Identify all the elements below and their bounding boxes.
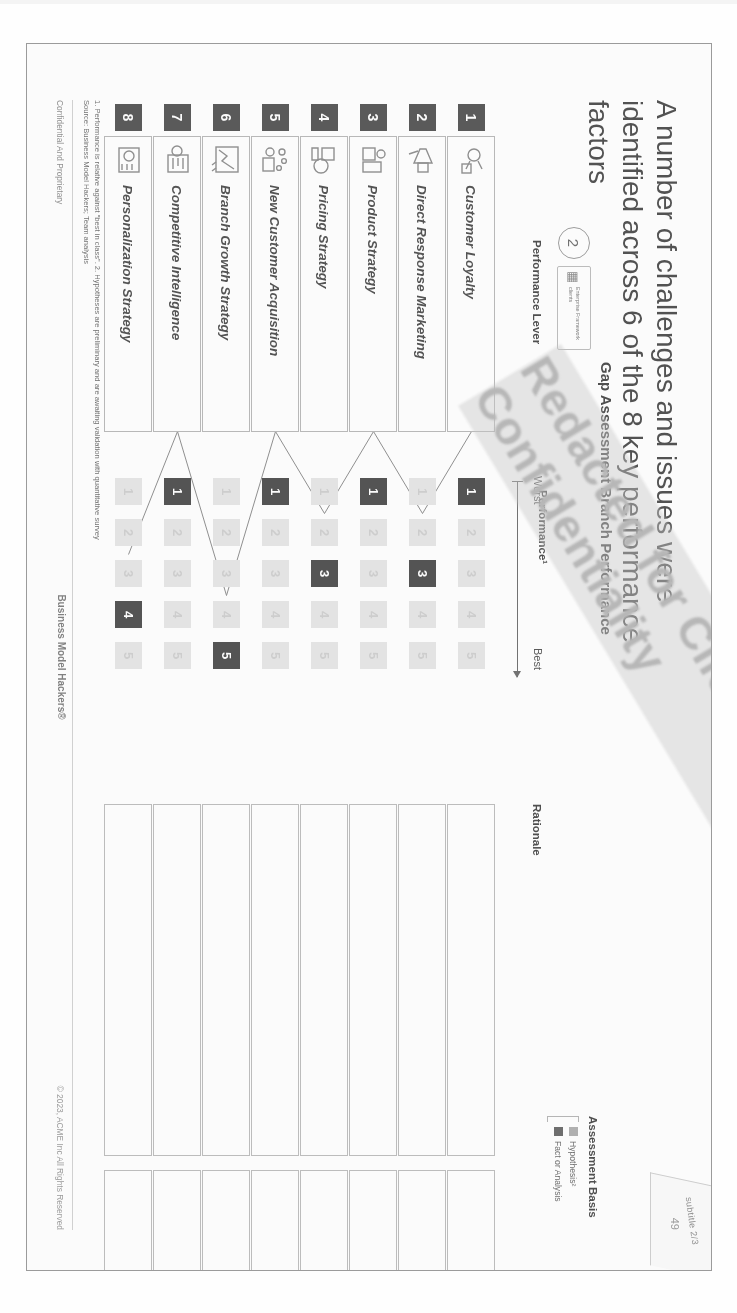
score-scale: 12345 [206, 478, 246, 684]
scanned-page: subtitle 2/3 A number of challenges and … [0, 0, 737, 1313]
score-cell[interactable]: 3 [115, 560, 142, 587]
page-number: 49 [669, 1217, 681, 1229]
lever-cell[interactable]: Direct Response Marketing [398, 136, 446, 432]
legend-item-hypothesis: Hypothesis² [566, 1127, 581, 1236]
score-cell[interactable]: 3 [360, 560, 387, 587]
score-cell[interactable]: 2 [311, 519, 338, 546]
assessment-basis-cell[interactable] [202, 1170, 250, 1271]
score-cell[interactable]: 4 [360, 601, 387, 628]
score-cell-selected[interactable]: 3 [311, 560, 338, 587]
score-cell[interactable]: 2 [262, 519, 289, 546]
loyalty-heart-icon [455, 144, 487, 176]
score-cell[interactable]: 2 [360, 519, 387, 546]
lever-label: Product Strategy [365, 185, 380, 294]
legend-item-fact: Fact or Analysis [551, 1127, 566, 1236]
score-scale: 12345 [402, 478, 442, 684]
rationale-cell[interactable] [300, 804, 348, 1156]
score-cell[interactable]: 4 [213, 601, 240, 628]
score-cell[interactable]: 5 [164, 642, 191, 669]
rationale-cell[interactable] [104, 804, 152, 1156]
assessment-basis-cell[interactable] [398, 1170, 446, 1271]
column-header-rationale: Rationale [531, 804, 543, 856]
score-cell-selected[interactable]: 1 [262, 478, 289, 505]
score-cell-selected[interactable]: 1 [164, 478, 191, 505]
rotated-slide-wrapper: subtitle 2/3 A number of challenges and … [26, 43, 712, 1271]
score-cell-selected[interactable]: 4 [115, 601, 142, 628]
score-cell[interactable]: 5 [409, 642, 436, 669]
legend-bracket [547, 1116, 579, 1122]
lever-label: Direct Response Marketing [414, 185, 429, 359]
lever-label: Competitive Intelligence [169, 185, 184, 340]
score-cell[interactable]: 4 [164, 601, 191, 628]
score-cell[interactable]: 2 [115, 519, 142, 546]
compete-board-icon [161, 144, 193, 176]
score-cell[interactable]: 2 [409, 519, 436, 546]
step-badge: 2 [558, 227, 590, 259]
footer-right: © 2023, ACME Inc All Rights Reserved [55, 1085, 65, 1229]
assessment-basis-cell[interactable] [349, 1170, 397, 1271]
score-cell[interactable]: 2 [213, 519, 240, 546]
rationale-cell[interactable] [153, 804, 201, 1156]
score-scale: 12345 [451, 478, 491, 684]
score-cell[interactable]: 4 [262, 601, 289, 628]
slide-canvas: subtitle 2/3 A number of challenges and … [26, 43, 712, 1271]
lever-cell[interactable]: Branch Growth Strategy [202, 136, 250, 432]
score-scale: 12345 [108, 478, 148, 684]
rationale-cell[interactable] [202, 804, 250, 1156]
lever-cell[interactable]: Competitive Intelligence [153, 136, 201, 432]
rationale-cell[interactable] [251, 804, 299, 1156]
score-cell[interactable]: 5 [311, 642, 338, 669]
score-cell-selected[interactable]: 1 [458, 478, 485, 505]
framework-chip[interactable]: ▦ Enterprise Framework clients [557, 266, 591, 350]
score-cell[interactable]: 2 [164, 519, 191, 546]
grid-icon: ▦ [567, 271, 580, 283]
lever-label: Branch Growth Strategy [218, 185, 233, 340]
lever-label: Personalization Strategy [120, 185, 135, 343]
score-cell-selected[interactable]: 1 [360, 478, 387, 505]
score-cell[interactable]: 3 [164, 560, 191, 587]
legend-swatch-hypothesis [569, 1127, 578, 1136]
row-number: 7 [164, 104, 191, 131]
score-cell[interactable]: 1 [409, 478, 436, 505]
framework-chip-label: Enterprise Framework clients [567, 287, 581, 345]
rationale-cell[interactable] [447, 804, 495, 1156]
lever-label: Customer Loyalty [463, 185, 478, 299]
axis-label-best: Best [532, 648, 544, 670]
score-cell[interactable]: 4 [311, 601, 338, 628]
score-cell-selected[interactable]: 5 [213, 642, 240, 669]
score-cell[interactable]: 3 [458, 560, 485, 587]
assessment-basis-cell[interactable] [153, 1170, 201, 1271]
lever-cell[interactable]: Product Strategy [349, 136, 397, 432]
lever-cell[interactable]: Personalization Strategy [104, 136, 152, 432]
row-number: 1 [458, 104, 485, 131]
assessment-basis-cell[interactable] [251, 1170, 299, 1271]
score-cell[interactable]: 1 [213, 478, 240, 505]
score-cell[interactable]: 1 [115, 478, 142, 505]
score-cell[interactable]: 4 [458, 601, 485, 628]
footnotes: 1. Performance is relative against “best… [80, 100, 103, 540]
score-cell[interactable]: 1 [311, 478, 338, 505]
score-cell[interactable]: 5 [458, 642, 485, 669]
rationale-cell[interactable] [349, 804, 397, 1156]
score-cell[interactable]: 3 [262, 560, 289, 587]
megaphone-icon [406, 144, 438, 176]
score-scale: 12345 [353, 478, 393, 684]
score-cell[interactable]: 4 [409, 601, 436, 628]
legend: Hypothesis² Fact or Analysis [551, 1116, 581, 1236]
lever-cell[interactable]: Pricing Strategy [300, 136, 348, 432]
score-cell[interactable]: 5 [360, 642, 387, 669]
rationale-cell[interactable] [398, 804, 446, 1156]
row-number: 8 [115, 104, 142, 131]
score-cell[interactable]: 2 [458, 519, 485, 546]
score-cell-selected[interactable]: 3 [409, 560, 436, 587]
assessment-basis-cell[interactable] [447, 1170, 495, 1271]
score-cell[interactable]: 3 [213, 560, 240, 587]
column-header-lever: Performance Lever [531, 240, 543, 344]
score-cell[interactable]: 5 [262, 642, 289, 669]
assessment-basis-cell[interactable] [300, 1170, 348, 1271]
lever-cell[interactable]: New Customer Acquisition [251, 136, 299, 432]
persona-gear-icon [112, 144, 144, 176]
score-scale: 12345 [255, 478, 295, 684]
score-cell[interactable]: 5 [115, 642, 142, 669]
assessment-basis-cell[interactable] [104, 1170, 152, 1271]
